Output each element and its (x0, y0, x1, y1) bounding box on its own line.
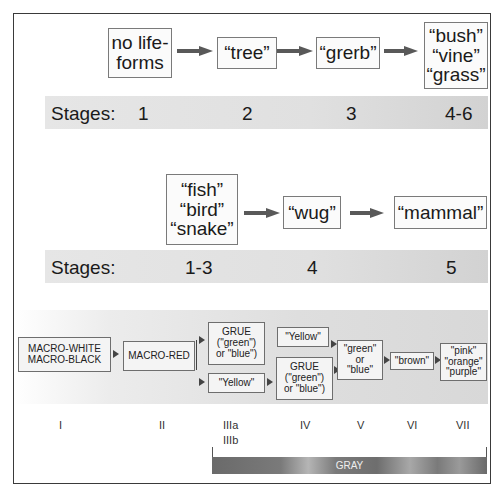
wug-box: “wug” (283, 196, 341, 229)
stage-roman: VII (456, 418, 469, 433)
arrow-right-icon (244, 208, 280, 218)
bush-vine-grass-box: “bush” “vine” “grass” (424, 22, 488, 89)
stage-roman: V (357, 418, 364, 433)
grerb-box: “grerb” (316, 37, 380, 69)
arrow-right-icon (199, 378, 205, 386)
stage-value: 4-6 (445, 103, 472, 125)
branch-line (196, 340, 197, 370)
stage-roman: VI (407, 418, 417, 433)
stages-label: Stages: (51, 103, 115, 125)
macro-white-black-box: MACRO-WHITE MACRO-BLACK (18, 337, 111, 372)
gray-bracket (212, 447, 487, 457)
green-or-blue-box: "green" or "blue" (337, 340, 383, 380)
stages-label: Stages: (51, 257, 115, 279)
arrow-right-icon (267, 378, 273, 386)
arrow-right-icon (199, 336, 205, 344)
yellow-lower-box: "Yellow" (208, 373, 265, 393)
tree-box: “tree” (217, 37, 277, 69)
stage-roman: I (59, 418, 62, 433)
figure-frame (13, 13, 491, 484)
arrow-right-icon (350, 208, 384, 218)
stage-value: 3 (346, 103, 357, 125)
stage-value: 5 (446, 257, 457, 279)
grue-lower-box: GRUE ("green") or "blue") (276, 357, 333, 400)
stage-roman: II (159, 418, 165, 433)
gray-bar: GRAY (212, 457, 487, 474)
grue-upper-box: GRUE ("green") or "blue") (208, 322, 265, 365)
arrow-right-icon (277, 46, 313, 56)
arrow-right-icon (384, 46, 418, 56)
stage-value: 1-3 (185, 257, 212, 279)
arrow-right-icon (177, 46, 213, 56)
stage-value: 2 (242, 103, 253, 125)
stage-roman: IV (300, 418, 310, 433)
arrow-right-icon (113, 350, 119, 358)
fish-bird-snake-box: “fish” “bird” “snake” (166, 174, 238, 245)
macro-red-box: MACRO-RED (123, 341, 195, 371)
stages-bar-b: Stages: 1-3 4 5 (45, 250, 488, 283)
stages-bar-a: Stages: 1 2 3 4-6 (45, 96, 488, 129)
yellow-upper-box: "Yellow" (277, 327, 329, 347)
stage-value: 4 (307, 257, 318, 279)
brown-box: "brown" (390, 352, 434, 370)
stage-roman: IIIa IIIb (223, 418, 238, 448)
mammal-box: “mammal” (394, 196, 487, 229)
stage-value: 1 (138, 103, 149, 125)
no-life-forms-box: no life- forms (108, 28, 172, 78)
pink-orange-purple-box: "pink" "orange" "purple" (440, 343, 487, 381)
